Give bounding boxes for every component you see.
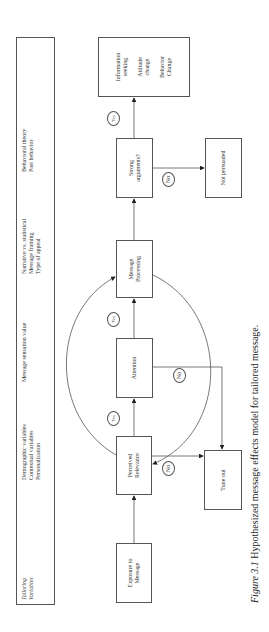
outcome-information-seeking: Information seeking: [115, 53, 129, 82]
node-label: Message: [134, 563, 141, 584]
outcome-behavior-change: Behavior Change: [159, 56, 173, 78]
caption-text: Hypothesized message effects model for t…: [249, 325, 260, 559]
node-perceived-relevance: Perceived Relevance: [116, 436, 152, 495]
node-label: Strong: [128, 160, 135, 176]
node-label: Behavior: [159, 56, 166, 78]
node-label: arguments?: [135, 154, 142, 182]
node-attention: Attention: [116, 338, 153, 398]
node-tune-out: Tune out: [204, 450, 242, 510]
node-exposure: Exposure to Message: [116, 543, 152, 603]
node-label: Change: [166, 56, 173, 78]
node-not-persuaded: Not persuaded: [205, 138, 242, 198]
node-label: seeking: [122, 53, 129, 82]
node-label: Perceived: [127, 454, 134, 478]
badge-yes-attention: Yes: [107, 312, 120, 327]
figure-caption: Figure 3.1 Hypothesized message effects …: [249, 325, 261, 603]
node-label: Attention: [131, 357, 138, 380]
badge-no-attention: No: [173, 368, 186, 383]
node-label: Exposure to: [127, 559, 134, 588]
node-strong-arguments: Strong arguments?: [116, 138, 153, 198]
node-label: Relevance: [134, 453, 141, 478]
badge-yes-strong-arguments: Yes: [107, 111, 120, 126]
node-label: change: [144, 57, 151, 77]
node-label: Message: [128, 259, 135, 280]
node-outcomes: Information seeking Attitude change Beha…: [98, 37, 190, 97]
node-label: Not persuaded: [220, 151, 227, 186]
badge-no-relevance: No: [162, 461, 175, 476]
node-label: Tune out: [220, 469, 227, 490]
diagram-canvas: Tailoring Variables Demographic variable…: [0, 0, 269, 632]
node-label: Information: [115, 53, 122, 82]
badge-yes-relevance: Yes: [107, 411, 120, 426]
outcome-attitude-change: Attitude change: [137, 57, 151, 77]
node-label: Attitude: [137, 57, 144, 77]
node-label: Processing: [135, 256, 142, 282]
figure-number: Figure 3.1: [249, 561, 260, 603]
badge-no-strong-arguments: No: [162, 172, 175, 187]
node-message-processing: Message Processing: [116, 240, 153, 298]
